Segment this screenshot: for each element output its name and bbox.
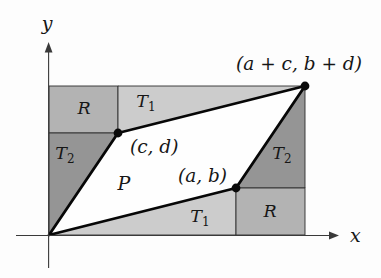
ab-point-label: (a, b) <box>178 165 227 186</box>
x-axis-label: x <box>350 224 361 246</box>
t1-top-subscript: 1 <box>148 100 156 114</box>
y-axis-label: y <box>41 12 53 34</box>
t2-left-subscript: 2 <box>67 152 75 166</box>
y-axis-arrowhead-icon <box>45 42 53 53</box>
parallelogram-area-diagram: y x (a + c, b + d) (c, d) (a, b) P R R T… <box>0 0 381 278</box>
point-dot-sum <box>301 82 310 91</box>
sum-point-label: (a + c, b + d) <box>236 53 362 74</box>
t2-right-subscript: 2 <box>284 152 292 166</box>
region-label-P: P <box>117 172 132 194</box>
parallelogram-area-figure: y x (a + c, b + d) (c, d) (a, b) P R R T… <box>0 0 381 278</box>
region-label-R-bottom: R <box>262 201 276 221</box>
point-dot-cd <box>114 129 123 138</box>
cd-point-label: (c, d) <box>130 136 178 157</box>
point-dot-ab <box>232 184 241 193</box>
t1-bottom-subscript: 1 <box>202 215 210 229</box>
region-label-R-top: R <box>76 98 90 118</box>
x-axis-arrowhead-icon <box>329 232 339 240</box>
